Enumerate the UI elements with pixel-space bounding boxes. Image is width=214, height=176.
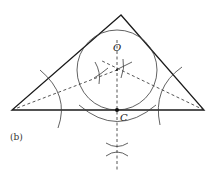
tangent-point <box>115 108 119 112</box>
right-angle-bisector <box>100 60 204 110</box>
incircle-construction-diagram: O C (b) <box>0 0 214 176</box>
triangle <box>12 15 204 110</box>
label-c: C <box>120 112 128 123</box>
incenter-point <box>116 69 118 71</box>
left-angle-bisector <box>12 70 117 110</box>
label-o: O <box>113 42 121 53</box>
left-vertex-arc <box>40 70 61 128</box>
figure-caption: (b) <box>10 132 23 142</box>
base-arc <box>79 105 156 122</box>
bisector-cross-marks <box>94 59 132 84</box>
right-vertex-arc <box>158 67 182 125</box>
